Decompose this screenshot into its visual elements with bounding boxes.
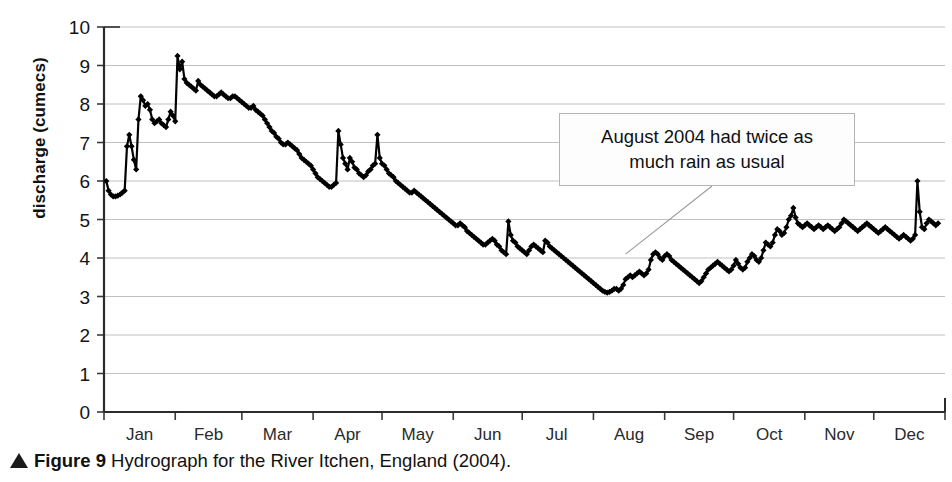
y-axis-ticks: 012345678910 <box>69 17 104 423</box>
figure-caption: Figure 9 Hydrograph for the River Itchen… <box>10 450 940 472</box>
figure-label: Figure 9 <box>34 450 106 471</box>
svg-text:1: 1 <box>79 364 90 385</box>
svg-text:5: 5 <box>79 210 90 231</box>
svg-text:May: May <box>402 425 435 444</box>
svg-text:Jan: Jan <box>126 425 153 444</box>
svg-text:Oct: Oct <box>756 425 783 444</box>
svg-text:2: 2 <box>79 325 90 346</box>
hydrograph-figure: 012345678910 JanFebMarAprMayJunJulAugSep… <box>0 0 952 482</box>
annotation-line-2: much rain as usual <box>629 151 784 172</box>
annotation-line-1: August 2004 had twice as <box>601 126 813 147</box>
x-axis-month-labels: JanFebMarAprMayJunJulAugSepOctNovDec <box>126 425 925 444</box>
svg-text:9: 9 <box>79 56 90 77</box>
annotation-callout-text: August 2004 had twice as much rain as us… <box>601 125 813 174</box>
svg-text:Jun: Jun <box>474 425 501 444</box>
svg-text:8: 8 <box>79 94 90 115</box>
triangle-up-icon <box>10 453 28 468</box>
svg-text:7: 7 <box>79 133 90 154</box>
svg-text:Feb: Feb <box>194 425 223 444</box>
gridlines <box>104 27 945 412</box>
svg-text:4: 4 <box>79 248 90 269</box>
svg-text:Jul: Jul <box>546 425 568 444</box>
annotation-callout-box: August 2004 had twice as much rain as us… <box>559 113 855 186</box>
svg-text:0: 0 <box>79 402 90 423</box>
svg-text:10: 10 <box>69 17 90 38</box>
svg-text:Apr: Apr <box>334 425 361 444</box>
svg-text:Dec: Dec <box>894 425 925 444</box>
x-axis-ticks <box>104 412 945 420</box>
y-axis-title: discharge (cumecs) <box>30 0 50 288</box>
svg-text:6: 6 <box>79 171 90 192</box>
svg-text:3: 3 <box>79 287 90 308</box>
svg-text:Aug: Aug <box>614 425 644 444</box>
svg-text:Sep: Sep <box>684 425 714 444</box>
svg-text:Mar: Mar <box>263 425 293 444</box>
annotation-leader-line <box>626 186 712 254</box>
hydrograph-chart: 012345678910 JanFebMarAprMayJunJulAugSep… <box>0 0 952 448</box>
svg-text:Nov: Nov <box>824 425 855 444</box>
figure-caption-text: Hydrograph for the River Itchen, England… <box>106 450 511 471</box>
